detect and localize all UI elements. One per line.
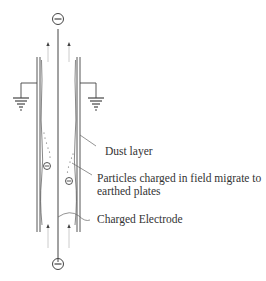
diagram-graphic [0,0,266,281]
electrode-leader [58,213,90,221]
left-particle-trail [43,132,50,157]
dust-layer-label: Dust layer [105,145,153,158]
top-negative-charge-icon [53,14,64,25]
right-earthed-plate [74,57,80,232]
charged-electrode-label: Charged Electrode [97,213,183,226]
right-particle-negative-icon [66,178,73,185]
right-ground-icon [80,83,104,110]
dust-layer-leader [80,135,96,146]
precipitator-diagram: Dust layer Particles charged in field mi… [0,0,266,281]
left-particle-negative-icon [44,163,51,170]
left-ground-icon [13,83,37,110]
particles-label-line1: Particles charged in field migrate to [97,172,261,185]
left-earthed-plate [37,57,43,232]
particles-label-line2: earthed plates [97,185,161,198]
